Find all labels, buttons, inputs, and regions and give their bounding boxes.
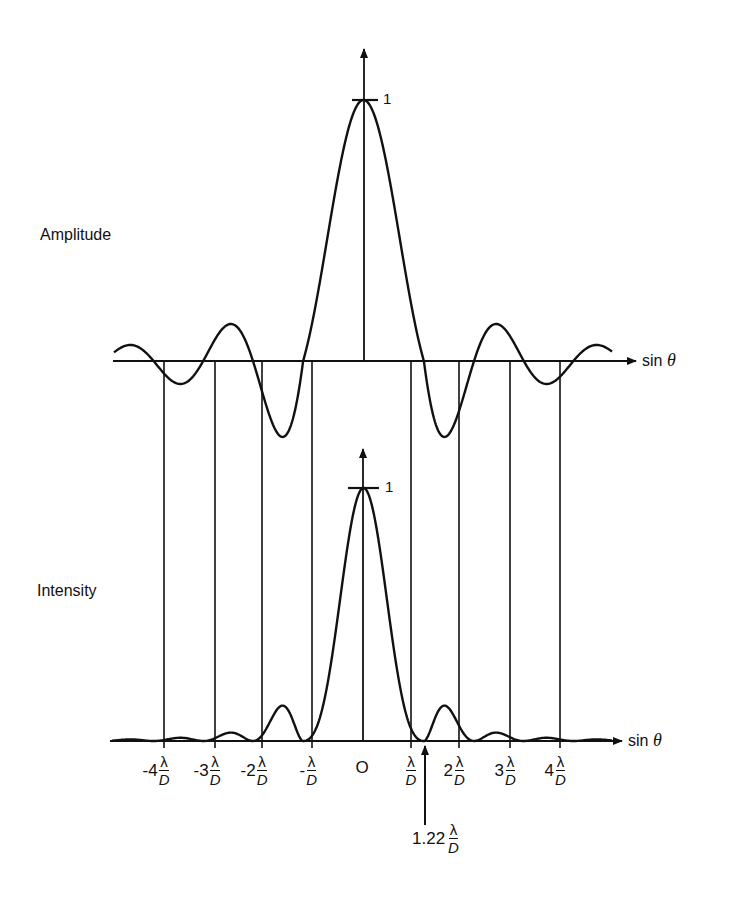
intensity-label: Intensity (37, 582, 97, 600)
fraction-denominator: D (210, 771, 221, 787)
fraction-numerator: λ (455, 754, 465, 771)
x-tick-label: 2λD (444, 754, 465, 787)
x-tick-label: 4λD (545, 754, 566, 787)
tick-prefix: 2 (444, 761, 453, 781)
first-zero-annotation: 1.22 λ D (412, 822, 459, 855)
fraction-numerator: λ (257, 754, 267, 771)
amplitude-axis-label: sin θ (642, 350, 676, 371)
x-tick-label: -3λD (194, 754, 221, 787)
tick-prefix: -2 (241, 761, 256, 781)
x-tick-label: O (355, 758, 368, 778)
fraction: λD (306, 754, 317, 787)
fraction-numerator: λ (556, 754, 566, 771)
fraction-numerator: λ (449, 822, 459, 839)
tick-prefix: - (300, 761, 306, 781)
annotation-prefix: 1.22 (412, 829, 445, 849)
theta-symbol: θ (653, 730, 662, 750)
intensity-axis-label: sin θ (628, 730, 662, 751)
fraction-denominator: D (454, 771, 465, 787)
intensity-curve (112, 488, 612, 741)
fraction-denominator: D (505, 771, 516, 787)
fraction: λD (505, 754, 516, 787)
tick-prefix: -3 (194, 761, 209, 781)
fraction-numerator: λ (159, 754, 169, 771)
gridlines (164, 361, 560, 748)
axis-label-text: sin (628, 732, 648, 749)
fraction-denominator: D (257, 771, 268, 787)
fraction: λD (257, 754, 268, 787)
fraction: λD (159, 754, 170, 787)
fraction-numerator: λ (506, 754, 516, 771)
intensity-peak-label: 1 (385, 478, 393, 495)
x-tick-label: -4λD (143, 754, 170, 787)
fraction-denominator: D (555, 771, 566, 787)
theta-symbol: θ (667, 350, 676, 370)
amplitude-label: Amplitude (40, 226, 111, 244)
axis-label-text: sin (642, 352, 662, 369)
tick-prefix: -4 (143, 761, 158, 781)
fraction-denominator: D (448, 839, 459, 855)
x-tick-label: -λD (300, 754, 318, 787)
fraction-numerator: λ (210, 754, 220, 771)
fraction-denominator: D (159, 771, 170, 787)
fraction: λD (210, 754, 221, 787)
tick-prefix: O (355, 758, 368, 778)
amplitude-peak-label: 1 (383, 90, 391, 107)
fraction: λ D (448, 822, 459, 855)
fraction: λD (555, 754, 566, 787)
fraction-numerator: λ (406, 754, 416, 771)
tick-prefix: 4 (545, 761, 554, 781)
amplitude-curve (114, 100, 612, 437)
fraction-denominator: D (406, 771, 417, 787)
fraction: λD (406, 754, 417, 787)
x-tick-label: 3λD (495, 754, 516, 787)
x-tick-label: -2λD (241, 754, 268, 787)
fraction: λD (454, 754, 465, 787)
fraction-numerator: λ (307, 754, 317, 771)
fraction-denominator: D (306, 771, 317, 787)
tick-prefix: 3 (495, 761, 504, 781)
x-tick-label: λD (405, 754, 417, 787)
